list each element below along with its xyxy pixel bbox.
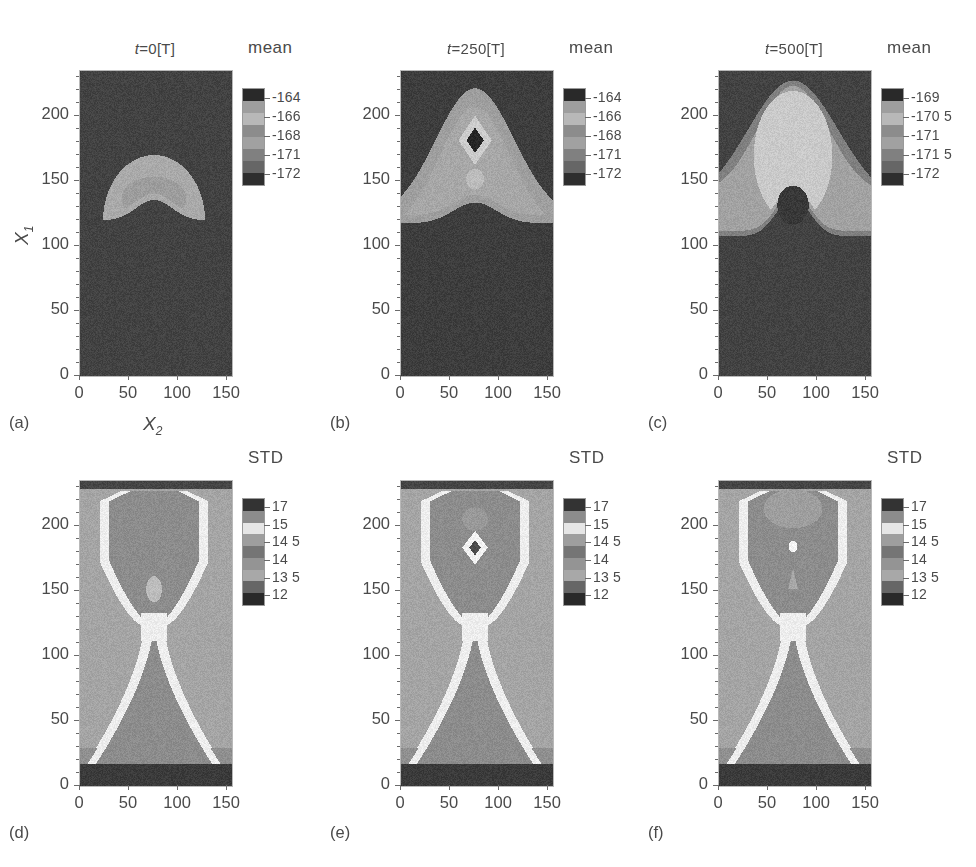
- ytick-minor: [715, 642, 718, 643]
- ytick-minor: [715, 694, 718, 695]
- ytick-minor: [715, 512, 718, 513]
- ytick-mark: [713, 720, 718, 721]
- colorbar-tick-label: 17: [911, 498, 927, 514]
- colorbar-tick-label: 14 5: [911, 533, 939, 549]
- colorbar-swatch: [882, 593, 903, 605]
- colorbar-swatch: [882, 534, 903, 546]
- ytick-minor: [715, 772, 718, 773]
- ytick-minor: [715, 616, 718, 617]
- heatmap-canvas-f: [719, 481, 871, 786]
- xtick-mark: [865, 785, 866, 790]
- colorbar-tick-label: 12: [911, 586, 927, 602]
- xtick-mark: [767, 785, 768, 790]
- colorbar-swatch: [882, 558, 903, 570]
- ytick-minor: [715, 603, 718, 604]
- xtick-label: 50: [741, 793, 793, 812]
- colorbar-tick-mark: [903, 595, 909, 596]
- ytick-minor: [715, 668, 718, 669]
- colorbar-tick-mark: [903, 542, 909, 543]
- colorbar-swatch: [882, 499, 903, 511]
- colorbar-tick-mark: [903, 525, 909, 526]
- ytick-mark: [713, 525, 718, 526]
- ytick-label: 100: [656, 644, 708, 663]
- figure-root: t=0[T]050100150200050100150X1X2(a)mean-1…: [0, 0, 976, 867]
- ytick-minor: [715, 681, 718, 682]
- ytick-minor: [715, 707, 718, 708]
- colorbar-tick-label: 14: [911, 551, 927, 567]
- ytick-minor: [715, 759, 718, 760]
- ytick-label: 200: [656, 514, 708, 533]
- colorbar-tick-mark: [903, 578, 909, 579]
- xtick-label: 150: [839, 793, 891, 812]
- subplot-label-f: (f): [648, 823, 664, 842]
- colorbar-swatch: [882, 523, 903, 535]
- colorbar-swatch: [882, 546, 903, 558]
- colorbar-title-f: STD: [887, 448, 923, 468]
- ytick-label: 150: [656, 579, 708, 598]
- panel-f: 050100150200050100150(f)STD171514 51413 …: [0, 0, 976, 867]
- ytick-minor: [715, 629, 718, 630]
- colorbar-swatch: [882, 511, 903, 523]
- xtick-mark: [816, 785, 817, 790]
- ytick-mark: [713, 590, 718, 591]
- ytick-label: 50: [656, 709, 708, 728]
- colorbar-tick-mark: [903, 507, 909, 508]
- colorbar-f: [881, 498, 904, 606]
- colorbar-swatch: [882, 581, 903, 593]
- ytick-minor: [715, 551, 718, 552]
- ytick-mark: [713, 655, 718, 656]
- ytick-minor: [715, 499, 718, 500]
- colorbar-tick-mark: [903, 560, 909, 561]
- xtick-mark: [718, 785, 719, 790]
- xtick-label: 0: [692, 793, 744, 812]
- ytick-minor: [715, 486, 718, 487]
- ytick-minor: [715, 746, 718, 747]
- colorbar-tick-label: 15: [911, 516, 927, 532]
- ytick-minor: [715, 564, 718, 565]
- xtick-label: 100: [790, 793, 842, 812]
- colorbar-swatch: [882, 570, 903, 582]
- plot-area-f: [718, 480, 872, 787]
- ytick-label: 0: [656, 774, 708, 793]
- ytick-minor: [715, 538, 718, 539]
- colorbar-tick-label: 13 5: [911, 569, 939, 585]
- ytick-minor: [715, 733, 718, 734]
- ytick-minor: [715, 577, 718, 578]
